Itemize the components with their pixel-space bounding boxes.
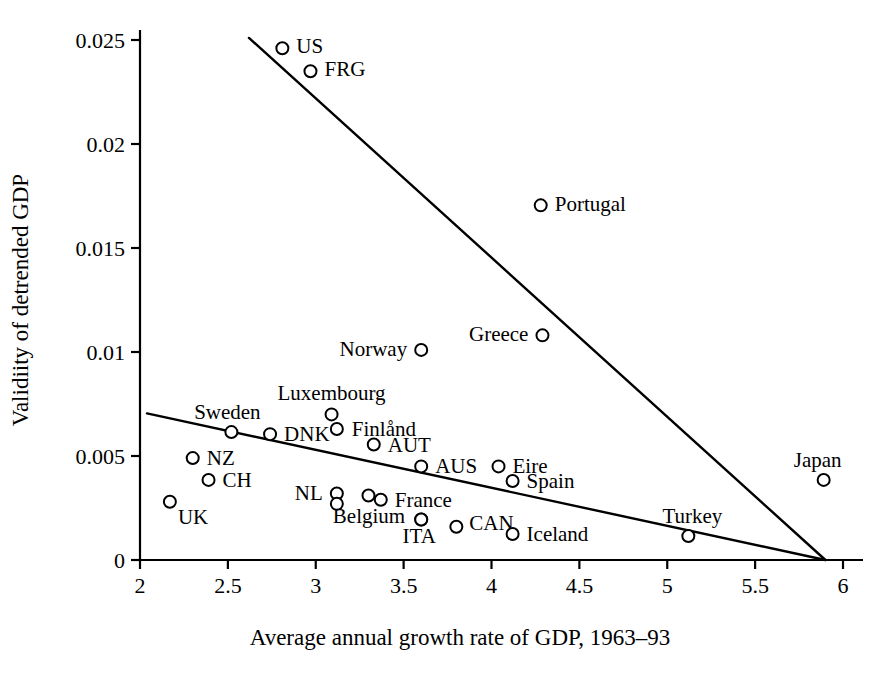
data-point-marker bbox=[304, 65, 316, 77]
data-point-marker bbox=[818, 474, 830, 486]
data-point-label: FRG bbox=[324, 57, 365, 81]
data-point-label: UK bbox=[178, 505, 208, 529]
data-point-marker bbox=[362, 490, 374, 502]
data-point-marker bbox=[276, 42, 288, 54]
data-point-marker bbox=[326, 408, 338, 420]
data-point-marker bbox=[368, 439, 380, 451]
data-point-label: AUT bbox=[388, 433, 431, 457]
data-point-label: Luxembourg bbox=[278, 381, 387, 405]
x-tick-labels: 22.533.544.555.56 bbox=[135, 573, 849, 598]
x-axis-title: Average annual growth rate of GDP, 1963–… bbox=[250, 625, 671, 650]
y-tick-labels: 00.0050.010.0150.020.025 bbox=[76, 28, 126, 573]
chart-figure: USFRGPortugalGreeceNorwayLuxembourgDNKFi… bbox=[0, 0, 879, 675]
scatter-plot-canvas: USFRGPortugalGreeceNorwayLuxembourgDNKFi… bbox=[0, 0, 879, 675]
data-point-marker bbox=[535, 199, 547, 211]
data-point-marker bbox=[507, 475, 519, 487]
x-tick-label: 3.5 bbox=[390, 573, 418, 598]
y-axis-title: Validiity of detrended GDP bbox=[8, 174, 33, 426]
data-point-marker bbox=[682, 530, 694, 542]
data-point-marker bbox=[415, 460, 427, 472]
data-point-marker bbox=[331, 423, 343, 435]
data-points: USFRGPortugalGreeceNorwayLuxembourgDNKFi… bbox=[164, 34, 842, 548]
data-point-label: Spain bbox=[527, 469, 575, 493]
data-point-label: NZ bbox=[207, 446, 235, 470]
x-tick-label: 4.5 bbox=[566, 573, 594, 598]
y-tick-label: 0.015 bbox=[76, 236, 126, 261]
x-tick-label: 2 bbox=[135, 573, 146, 598]
data-point-marker bbox=[225, 426, 237, 438]
data-point-label: NL bbox=[295, 481, 323, 505]
data-point-label: Iceland bbox=[527, 522, 589, 546]
data-point-label: US bbox=[296, 34, 323, 58]
data-point-marker bbox=[203, 474, 215, 486]
data-point-label: Sweden bbox=[194, 400, 261, 424]
data-point-label: Norway bbox=[340, 337, 408, 361]
data-point-label: Japan bbox=[794, 448, 842, 472]
data-point-label: Greece bbox=[469, 322, 528, 346]
x-tick-label: 3 bbox=[310, 573, 321, 598]
data-point-marker bbox=[164, 496, 176, 508]
data-point-marker bbox=[493, 460, 505, 472]
x-tick-label: 2.5 bbox=[214, 573, 242, 598]
data-point-label: AUS bbox=[435, 454, 477, 478]
data-point-label: Belgium bbox=[333, 504, 405, 528]
data-point-marker bbox=[450, 521, 462, 533]
data-point-label: DNK bbox=[284, 422, 330, 446]
data-point-marker bbox=[536, 329, 548, 341]
data-point-label: CH bbox=[223, 468, 252, 492]
data-point-label: Turkey bbox=[662, 504, 722, 528]
data-point-marker bbox=[264, 428, 276, 440]
data-point-label: ITA bbox=[403, 524, 437, 548]
y-tick-label: 0.02 bbox=[87, 132, 126, 157]
x-tick-label: 6 bbox=[838, 573, 849, 598]
data-point-marker bbox=[415, 344, 427, 356]
data-point-marker bbox=[187, 452, 199, 464]
x-tick-label: 5 bbox=[662, 573, 673, 598]
y-tick-label: 0.025 bbox=[76, 28, 126, 53]
data-point-label: Portugal bbox=[555, 192, 626, 216]
x-tick-label: 5.5 bbox=[741, 573, 769, 598]
y-tick-label: 0 bbox=[114, 548, 125, 573]
data-point-marker bbox=[507, 528, 519, 540]
y-tick-label: 0.005 bbox=[76, 444, 126, 469]
y-tick-label: 0.01 bbox=[87, 340, 126, 365]
x-tick-label: 4 bbox=[486, 573, 497, 598]
